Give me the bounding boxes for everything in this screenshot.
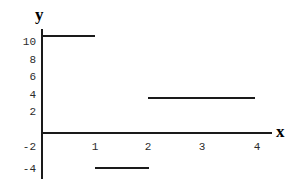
step-segment-3 [148,97,255,99]
step-segment-2 [95,167,149,169]
plot-area [0,0,305,186]
step-segment-1 [41,35,95,37]
step-function-chart: y x 10 8 6 4 2 -2 -4 1 2 3 4 [0,0,305,186]
